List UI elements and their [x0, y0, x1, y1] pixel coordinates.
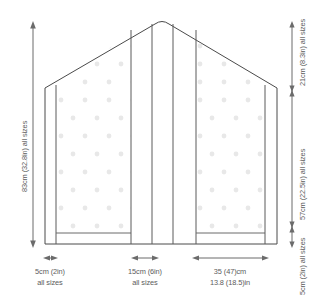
dimension-bottom-center-label-2: all sizes — [132, 278, 158, 287]
dimension-left-total: 83cm (32.8in) all sizes — [20, 21, 36, 248]
dimension-right-top-label: 21cm (8.3in) all sizes — [298, 18, 307, 86]
dimension-left-arrow-top — [30, 21, 36, 29]
dimension-right-arrow-57-top — [289, 90, 294, 97]
dimension-bottom-center-arrow-end — [152, 255, 159, 260]
garment-outline-group — [45, 22, 277, 245]
dimension-left-label: 83cm (32.8in) all sizes — [20, 120, 29, 192]
dimension-right-bottom-label: 5cm (2in) all sizes — [298, 237, 307, 295]
dimension-bottom-right-label-1: 35 (47)cm — [214, 267, 246, 276]
dimension-bottom-right-arrow-start — [192, 255, 199, 260]
dimension-bottom-left-arrow-start — [43, 255, 50, 260]
dimension-bottom-right-label-2: 13.8 (18.5)in — [210, 278, 250, 287]
dimension-bottom-left: 5cm (2in) all sizes — [35, 255, 65, 287]
dimension-bottom-right: 35 (47)cm 13.8 (18.5)in — [192, 255, 269, 287]
dimension-bottom-left-arrow-end — [51, 255, 58, 260]
dimension-right-arrow-5-top — [289, 226, 294, 233]
dimension-bottom-left-label-2: all sizes — [37, 278, 63, 287]
dimension-right-arrow-top — [289, 21, 294, 28]
dimension-right-middle-label: 57cm (22.5in) all sizes — [298, 148, 307, 220]
dimension-bottom-left-label-1: 5cm (2in) — [35, 267, 65, 276]
dimension-left-arrow-bottom — [30, 241, 36, 249]
dimension-right-group: 21cm (8.3in) all sizes 57cm (22.5in) all… — [289, 18, 307, 295]
dimension-bottom-center-arrow-start — [131, 255, 138, 260]
dimension-bottom-center: 15cm (6in) all sizes — [128, 255, 162, 287]
garment-outline — [45, 22, 277, 245]
dimension-bottom-right-arrow-end — [262, 255, 269, 260]
dimension-bottom-center-label-1: 15cm (6in) — [128, 267, 162, 276]
pattern-diagram: 83cm (32.8in) all sizes 21cm (8.3in) all… — [0, 0, 329, 306]
pattern-diagram-canvas: 83cm (32.8in) all sizes 21cm (8.3in) all… — [0, 0, 329, 306]
dimension-bottom-group: 5cm (2in) all sizes 15cm (6in) all sizes… — [35, 255, 269, 287]
dimension-right-arrow-5-bottom — [289, 242, 294, 249]
